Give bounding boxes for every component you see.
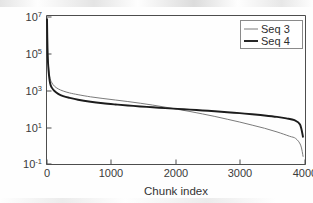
y-tick-exponent-2: 3 xyxy=(38,84,42,93)
svg-text:105: 105 xyxy=(26,47,42,60)
y-tick-mantissa-3: 10 xyxy=(26,122,38,134)
y-tick-mantissa-1: 10 xyxy=(26,48,38,60)
y-tick-exponent-0: 7 xyxy=(38,10,42,19)
legend[interactable]: Seq 3 Seq 4 xyxy=(241,21,303,49)
svg-text:103: 103 xyxy=(26,84,42,97)
y-tick-mantissa-0: 10 xyxy=(26,11,38,23)
x-axis-label: Chunk index xyxy=(46,181,306,199)
y-tick-mantissa-4: 10 xyxy=(23,158,35,170)
x-tick-label-3: 3000 xyxy=(228,167,252,179)
x-tick-label-4: 4000 xyxy=(293,167,313,179)
legend-label-seq-3: Seq 3 xyxy=(261,23,290,35)
chart-plot-area: 107 105 103 101 10-1 0 1000 2000 3000 40… xyxy=(0,0,313,203)
svg-text:107: 107 xyxy=(26,10,42,23)
x-tick-labels: 0 1000 2000 3000 4000 xyxy=(44,167,313,179)
svg-text:10-1: 10-1 xyxy=(23,157,42,170)
y-tick-exponent-1: 5 xyxy=(38,47,42,56)
y-tick-exponent-4: -1 xyxy=(35,157,42,166)
x-axis-label-text: Chunk index xyxy=(144,185,208,197)
x-tick-label-1: 1000 xyxy=(99,167,123,179)
x-tick-label-2: 2000 xyxy=(164,167,188,179)
svg-text:101: 101 xyxy=(26,121,42,134)
x-tick-marks xyxy=(47,160,305,165)
y-tick-labels: 107 105 103 101 10-1 xyxy=(23,10,42,170)
figure-canvas: 107 105 103 101 10-1 0 1000 2000 3000 40… xyxy=(0,0,313,203)
y-tick-exponent-3: 1 xyxy=(38,121,42,130)
y-tick-mantissa-2: 10 xyxy=(26,85,38,97)
legend-label-seq-4: Seq 4 xyxy=(261,35,290,47)
x-tick-label-0: 0 xyxy=(44,167,50,179)
